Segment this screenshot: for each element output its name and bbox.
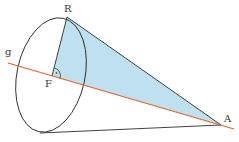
label-g: g xyxy=(5,46,12,57)
slant-line-bottom-A xyxy=(40,125,221,133)
right-angle-dot xyxy=(56,72,58,74)
label-R: R xyxy=(64,3,72,14)
label-F: F xyxy=(45,78,52,89)
label-A: A xyxy=(223,113,232,124)
shaded-triangle-RFA xyxy=(52,17,221,125)
cone-diagram: R F A g xyxy=(0,0,239,142)
